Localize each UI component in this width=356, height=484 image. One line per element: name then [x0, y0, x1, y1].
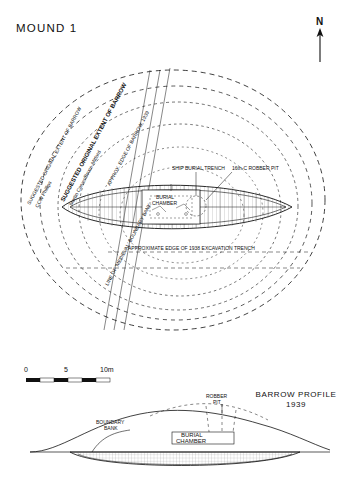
label-robber-pit: 16th-C ROBBER PIT: [232, 165, 279, 171]
label-suggested-extent-mb: SUGGESTED ORIGINAL EXTENT OF BARROW: [60, 82, 128, 203]
label-profile-robber-pit-2: PIT: [213, 399, 221, 405]
profile-title-line1: BARROW PROFILE: [246, 390, 346, 399]
label-ship-burial-trench: SHIP BURIAL TRENCH: [172, 165, 225, 171]
scale-tick-5: 5: [64, 366, 68, 373]
label-burial-chamber-plan2: CHAMBER: [152, 200, 177, 206]
label-profile-burial-chamber-2: CHAMBER: [176, 438, 207, 444]
barrow-profile-section: [30, 404, 330, 466]
profile-title-line2: 1939: [246, 400, 346, 409]
label-approx-edge-1938-trench: APPROXIMATE EDGE OF 1938 EXCAVATION TREN…: [128, 245, 255, 251]
scale-bar: [26, 378, 110, 382]
scale-tick-10m: 10m: [100, 366, 114, 373]
label-profile-boundary-bank-2: BANK: [104, 425, 118, 431]
scale-tick-0: 0: [24, 366, 28, 373]
label-approx-edge-1939: APPROX. EDGE OF BARROW, 1939: [106, 110, 151, 187]
north-arrow-icon: [317, 28, 324, 62]
ship-burial-outline: [62, 185, 292, 229]
mound-1-plan-figure: MOUND 1 N: [0, 0, 356, 484]
figure-svg: SUGGESTED ORIGINAL EXTENT OF BARROW CCW …: [0, 0, 356, 484]
